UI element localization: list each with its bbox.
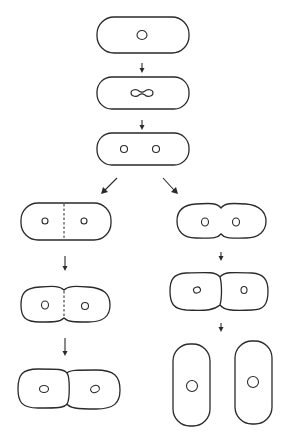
daughter-cell-right bbox=[235, 341, 272, 424]
left-2-cell bbox=[21, 286, 110, 322]
right-1-cell bbox=[177, 203, 266, 238]
arrow-down-1 bbox=[140, 63, 145, 73]
dividing-nucleoid bbox=[131, 90, 153, 97]
arrow-down-right-2 bbox=[219, 323, 224, 332]
stage-3-cell bbox=[97, 133, 189, 165]
left-3-cells bbox=[18, 369, 120, 409]
cell-division-diagram bbox=[0, 0, 285, 442]
arrow-down-right-1 bbox=[219, 252, 224, 261]
arrow-branch-left bbox=[101, 178, 117, 194]
daughter-cell-left bbox=[173, 344, 210, 426]
stage-1-cell bbox=[97, 17, 189, 53]
right-3-cells bbox=[173, 341, 272, 426]
arrow-down-left-2 bbox=[63, 338, 68, 356]
arrow-down-2 bbox=[140, 120, 145, 130]
right-2-cells bbox=[170, 272, 268, 310]
nucleoid-right bbox=[153, 146, 160, 153]
stage-2-cell bbox=[97, 77, 189, 109]
arrow-branch-right bbox=[163, 178, 178, 194]
nucleoid bbox=[137, 31, 147, 40]
arrow-down-left-1 bbox=[63, 256, 68, 271]
left-1-cell bbox=[21, 203, 111, 240]
nucleoid-left bbox=[121, 146, 128, 153]
